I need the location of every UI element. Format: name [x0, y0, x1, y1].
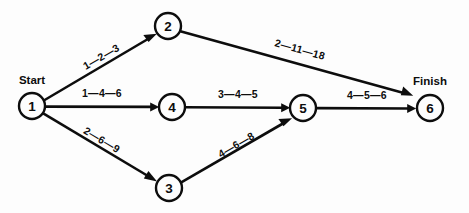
edge-label-1-4: 1—4—6: [82, 87, 122, 99]
arrow-head-1-3: [144, 171, 157, 182]
network-diagram-canvas: 1—2—3 1—4—6 2—6—9 2—11—18 3—4—5 4—6—8 4—…: [0, 0, 469, 213]
edge-4-to-5[interactable]: [185, 103, 290, 112]
node-2-label: 2: [164, 19, 172, 34]
node-5[interactable]: 5: [290, 95, 316, 121]
edge-5-to-6[interactable]: [316, 104, 416, 113]
edge-labels-group: 1—2—3 1—4—6 2—6—9 2—11—18 3—4—5 4—6—8 4—…: [81, 36, 387, 159]
edge-label-4-5: 3—4—5: [218, 88, 258, 100]
arrow-head-5-6: [407, 104, 416, 113]
finish-label: Finish: [413, 75, 447, 87]
node-4-label: 4: [168, 100, 176, 115]
node-3-label: 3: [165, 181, 173, 196]
edge-line-1-3: [43, 113, 150, 177]
node-6[interactable]: 6: [417, 95, 443, 121]
node-6-label: 6: [426, 101, 434, 116]
node-4[interactable]: 4: [159, 94, 185, 120]
edge-1-to-4[interactable]: [45, 103, 159, 112]
node-3[interactable]: 3: [156, 175, 182, 201]
arrow-head-2-6: [401, 87, 413, 96]
edge-line-4-5: [185, 107, 283, 108]
edge-2-to-6[interactable]: [180, 31, 413, 96]
network-diagram-svg: 1—2—3 1—4—6 2—6—9 2—11—18 3—4—5 4—6—8 4—…: [0, 0, 469, 213]
node-1-label: 1: [28, 99, 36, 114]
start-label: Start: [19, 74, 45, 86]
edge-label-5-6: 4—5—6: [347, 89, 387, 101]
node-1[interactable]: 1: [19, 93, 45, 119]
edge-label-3-5: 4—6—8: [216, 129, 257, 159]
node-2[interactable]: 2: [155, 13, 181, 39]
node-5-label: 5: [299, 101, 307, 116]
edge-1-to-3[interactable]: [43, 113, 157, 181]
